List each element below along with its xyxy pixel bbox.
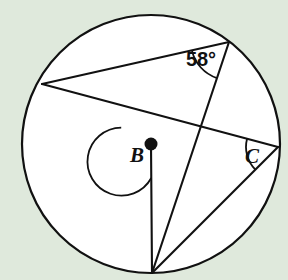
center-point-dot (145, 138, 158, 151)
geometry-canvas: 58° B C (0, 0, 288, 280)
geometry-figure: 58° B C (0, 0, 288, 280)
angle-label-58: 58° (186, 48, 216, 70)
radius-center-to-bottom (151, 144, 152, 273)
vertex-label-c: C (245, 144, 260, 168)
vertex-label-b: B (129, 143, 144, 167)
